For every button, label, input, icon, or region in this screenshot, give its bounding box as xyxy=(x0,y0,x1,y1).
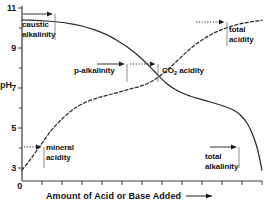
y-axis-title: pH xyxy=(0,80,12,90)
y-tick-label-11: 11 xyxy=(0,3,16,13)
total-alkalinity-line2: alkalinity xyxy=(205,162,238,172)
ph-titration-chart: 11 9 7 5 3 0 pH Amount of Acid or Base A… xyxy=(0,0,266,207)
total-alkalinity-line1: total xyxy=(205,152,238,162)
annotation-total-acidity: total acidity xyxy=(229,25,254,44)
mineral-acidity-line2: acidity xyxy=(46,153,74,163)
total-acidity-line2: acidity xyxy=(229,35,254,45)
mineral-acidity-line1: mineral xyxy=(46,143,74,153)
co2-acidity-suffix: acidity xyxy=(177,66,204,75)
x-axis-title: Amount of Acid or Base Added xyxy=(46,191,181,201)
x-axis-ticks xyxy=(42,181,262,185)
annotation-total-alkalinity: total alkalinity xyxy=(205,152,238,171)
co2-acidity-prefix: CO xyxy=(162,66,174,75)
caustic-alkalinity-line1: caustic xyxy=(22,20,55,30)
y-tick-label-3: 3 xyxy=(0,163,16,173)
annotation-p-alkalinity: p-alkalinity xyxy=(74,66,115,76)
annotation-caustic-alkalinity: caustic alkalinity xyxy=(22,20,55,39)
annotation-mineral-acidity: mineral acidity xyxy=(46,143,74,162)
y-axis-origin-label: 0 xyxy=(6,181,22,191)
p-alkalinity-label: p-alkalinity xyxy=(74,66,115,76)
caustic-alkalinity-line2: alkalinity xyxy=(22,30,55,40)
y-tick-label-5: 5 xyxy=(0,123,16,133)
co2-acidity-subscript: 2 xyxy=(174,70,177,76)
annotation-co2-acidity: CO2 acidity xyxy=(162,66,204,77)
y-tick-label-9: 9 xyxy=(0,43,16,53)
total-acidity-line1: total xyxy=(229,25,254,35)
